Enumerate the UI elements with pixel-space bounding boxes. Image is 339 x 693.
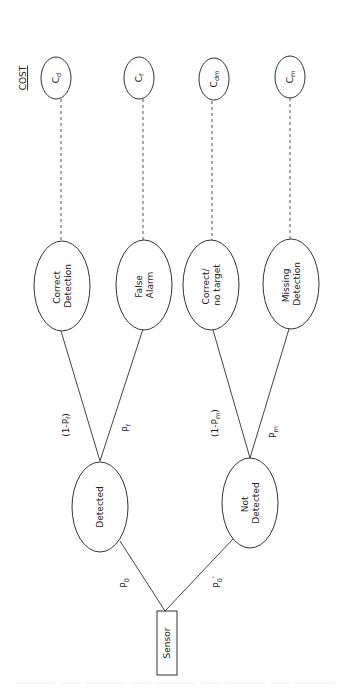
edge-detected-correct-detection [61, 331, 100, 461]
cost-header: COST [18, 65, 28, 90]
edge-notdetected-correct-no-target [213, 330, 250, 458]
prob-label-pm: Pm [268, 426, 280, 438]
svg-text:Missing Detection: Missing Detection [281, 262, 302, 306]
svg-text:False Alarm: False Alarm [134, 272, 155, 298]
cost-node-cd: Cd [41, 57, 71, 99]
sensor-node: Sensor [157, 611, 177, 675]
prob-label-pf: Pf [121, 423, 133, 431]
prob-label-p0-prime: P0' [211, 576, 224, 588]
prob-label-1-pm: (1-Pm) [210, 409, 222, 437]
outcome-node-correct-detection: Correct Detection [34, 241, 90, 331]
svg-text:Detected: Detected [95, 486, 105, 527]
edge-sensor-not-detected [165, 539, 233, 611]
edge-sensor-detected [120, 541, 165, 611]
svg-text:Sensor: Sensor [162, 627, 172, 658]
outcome-node-missing-detection: Missing Detection [263, 239, 319, 329]
outcome-node-false-alarm: False Alarm [116, 240, 172, 330]
decision-tree-diagram: COST Cd Cf Cdm Cm Correct Detection [0, 0, 339, 693]
cost-node-cm: Cm [275, 56, 305, 98]
cost-node-cf: Cf [124, 57, 154, 99]
node-not-detected: Not Detected [222, 458, 278, 548]
outcome-node-correct-no-target: Correct/ no target [183, 240, 239, 330]
prob-label-1-pf: (1-Pf) [61, 413, 73, 437]
svg-text:Correct Detection: Correct Detection [52, 264, 73, 308]
node-detected: Detected [72, 462, 128, 552]
prob-label-p0: P0 [119, 578, 131, 588]
svg-text:Correct/ no target: Correct/ no target [201, 264, 222, 306]
cost-node-cdm: Cdm [199, 58, 229, 100]
edge-detected-false-alarm [100, 329, 143, 461]
